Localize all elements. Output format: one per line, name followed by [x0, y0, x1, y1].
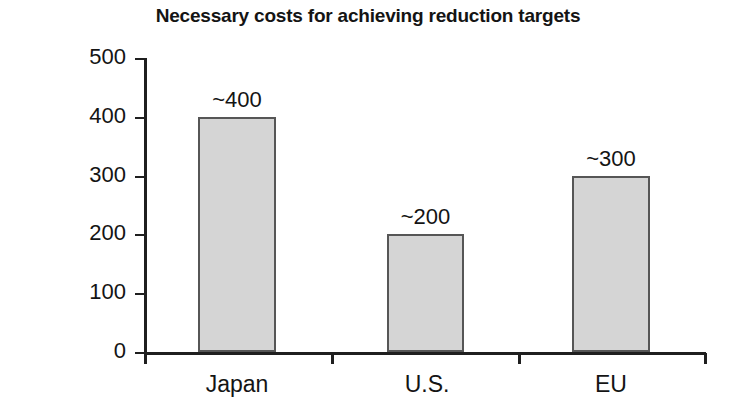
bar-japan: ~400 — [198, 117, 276, 352]
y-axis-tick: 200 — [135, 234, 145, 236]
x-axis-category-eu: EU — [595, 371, 627, 397]
x-axis-category-us: U.S. — [405, 371, 450, 397]
x-axis-tick — [331, 353, 334, 364]
bar-value-label: ~400 — [212, 88, 262, 112]
plot-area: 500 400 300 200 100 0 ~400 ~200 ~300 — [146, 58, 706, 352]
bar-value-label: ~300 — [586, 147, 636, 171]
bar-eu: ~300 — [572, 176, 650, 352]
y-axis-tick-label: 0 — [114, 339, 126, 363]
y-axis-tick: 500 — [135, 58, 145, 60]
x-axis-line — [144, 352, 706, 355]
y-axis-tick: 400 — [135, 117, 145, 119]
y-axis-tick: 300 — [135, 176, 145, 178]
x-axis-category-japan: Japan — [206, 371, 269, 397]
bar-us: ~200 — [387, 234, 464, 352]
y-axis-line — [144, 58, 147, 352]
y-axis-tick-label: 500 — [89, 45, 126, 69]
x-axis-tick — [704, 353, 707, 364]
x-axis-tick — [144, 353, 147, 364]
y-axis-tick-label: 400 — [89, 104, 126, 128]
y-axis-tick-label: 300 — [89, 163, 126, 187]
y-axis-tick: 100 — [135, 293, 145, 295]
y-axis-tick-label: 100 — [89, 280, 126, 304]
chart-title: Necessary costs for achieving reduction … — [0, 5, 736, 27]
x-axis-tick — [518, 353, 521, 364]
y-axis-tick-label: 200 — [89, 221, 126, 245]
bar-chart-figure: Necessary costs for achieving reduction … — [0, 0, 736, 417]
bar-value-label: ~200 — [401, 205, 451, 229]
